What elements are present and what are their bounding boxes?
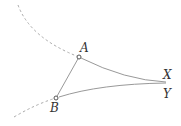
curve-b-to-y [59, 83, 166, 97]
diagram-canvas: A B X Y [0, 0, 181, 126]
point-a-marker [77, 55, 81, 59]
label-a: A [79, 41, 89, 55]
label-y: Y [163, 87, 172, 101]
segment-ab [56, 57, 79, 98]
label-x: X [162, 68, 172, 82]
curve-a-to-x [81, 58, 166, 82]
dashed-curve-upper [18, 5, 79, 57]
point-b-marker [54, 96, 58, 100]
label-b: B [49, 101, 59, 115]
